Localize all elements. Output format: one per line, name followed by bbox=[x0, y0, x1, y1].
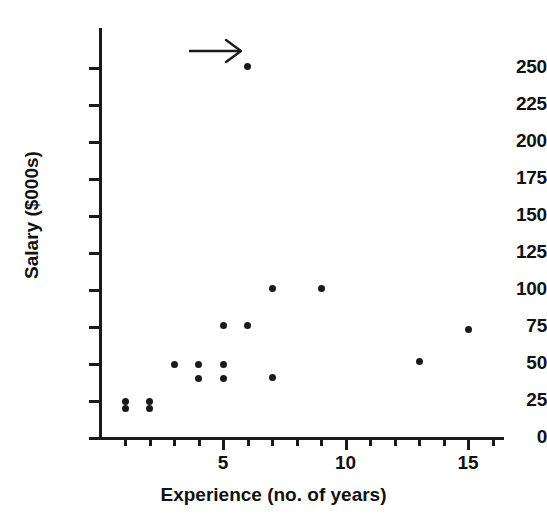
y-tick-0 bbox=[89, 437, 100, 440]
x-tick-minor-11 bbox=[369, 440, 372, 446]
y-tick-label-250: 250 bbox=[461, 56, 547, 78]
y-tick-250 bbox=[89, 67, 100, 70]
data-point bbox=[122, 398, 129, 405]
x-tick-minor-16 bbox=[492, 440, 495, 446]
y-tick-label-125: 125 bbox=[461, 241, 547, 263]
x-tick-minor-6 bbox=[247, 440, 250, 446]
y-tick-label-25: 25 bbox=[461, 389, 547, 411]
data-point bbox=[171, 361, 178, 368]
x-tick-major-10 bbox=[345, 440, 348, 450]
data-point bbox=[146, 405, 153, 412]
data-point bbox=[318, 285, 325, 292]
data-point bbox=[269, 285, 276, 292]
data-point bbox=[416, 358, 423, 365]
scatter-plot-figure: 0255075100125150175200225250 51015 Salar… bbox=[0, 0, 547, 527]
data-point bbox=[220, 375, 227, 382]
x-tick-major-5 bbox=[222, 440, 225, 450]
data-point bbox=[465, 326, 472, 333]
x-tick-label-15: 15 bbox=[443, 452, 493, 474]
y-tick-label-50: 50 bbox=[461, 352, 547, 374]
y-tick-label-175: 175 bbox=[461, 167, 547, 189]
x-tick-minor-13 bbox=[418, 440, 421, 446]
x-tick-major-15 bbox=[467, 440, 470, 450]
x-tick-minor-2 bbox=[149, 440, 152, 446]
x-tick-minor-4 bbox=[198, 440, 201, 446]
y-tick-175 bbox=[89, 178, 100, 181]
y-tick-225 bbox=[89, 104, 100, 107]
x-tick-label-10: 10 bbox=[321, 452, 371, 474]
y-tick-200 bbox=[89, 141, 100, 144]
y-tick-label-0: 0 bbox=[461, 426, 547, 448]
x-tick-minor-14 bbox=[443, 440, 446, 446]
x-tick-minor-1 bbox=[124, 440, 127, 446]
x-axis-title: Experience (no. of years) bbox=[0, 484, 547, 506]
x-tick-label-5: 5 bbox=[198, 452, 248, 474]
data-point bbox=[195, 375, 202, 382]
y-tick-label-200: 200 bbox=[461, 130, 547, 152]
data-point bbox=[146, 398, 153, 405]
x-tick-minor-9 bbox=[320, 440, 323, 446]
y-tick-75 bbox=[89, 326, 100, 329]
data-point bbox=[220, 322, 227, 329]
y-tick-25 bbox=[89, 400, 100, 403]
x-tick-minor-12 bbox=[394, 440, 397, 446]
data-point bbox=[244, 322, 251, 329]
y-tick-125 bbox=[89, 252, 100, 255]
data-point bbox=[195, 361, 202, 368]
data-point bbox=[220, 361, 227, 368]
y-tick-label-100: 100 bbox=[461, 278, 547, 300]
plot-area: 0255075100125150175200225250 51015 Salar… bbox=[0, 0, 547, 527]
y-tick-label-75: 75 bbox=[461, 315, 547, 337]
y-tick-100 bbox=[89, 289, 100, 292]
y-axis-line bbox=[99, 28, 102, 440]
y-tick-50 bbox=[89, 363, 100, 366]
y-tick-150 bbox=[89, 215, 100, 218]
x-tick-minor-7 bbox=[271, 440, 274, 446]
x-tick-minor-3 bbox=[173, 440, 176, 446]
y-tick-label-225: 225 bbox=[461, 93, 547, 115]
y-axis-title: Salary ($000s) bbox=[21, 100, 43, 330]
x-tick-minor-8 bbox=[296, 440, 299, 446]
data-point bbox=[122, 405, 129, 412]
data-point bbox=[269, 374, 276, 381]
outlier-arrow-icon bbox=[188, 36, 246, 66]
y-tick-label-150: 150 bbox=[461, 204, 547, 226]
